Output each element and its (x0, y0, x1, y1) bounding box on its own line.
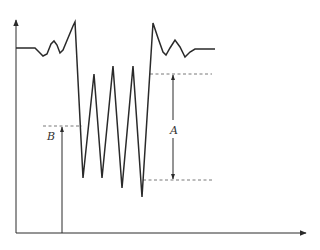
diagram-canvas: A B (0, 0, 320, 250)
waveform-line (16, 22, 215, 197)
label-b: B (46, 130, 55, 143)
label-a: A (169, 124, 178, 137)
waveform-diagram: A B (0, 0, 320, 250)
